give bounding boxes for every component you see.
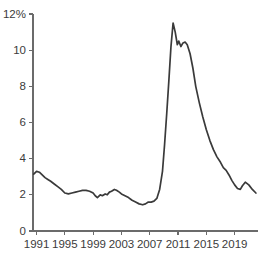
- y-axis: 12%1086420: [3, 8, 33, 237]
- y-tick-group: 12%1086420: [3, 8, 33, 237]
- chart-container: 12%1086420 19911995199920032007201120152…: [0, 0, 265, 259]
- x-tick-label: 1995: [52, 238, 78, 250]
- data-series-line: [34, 23, 256, 205]
- x-tick-label: 2003: [109, 238, 135, 250]
- x-tick-group: 19911995199920032007201120152019: [24, 231, 248, 250]
- y-tick-label: 8: [20, 80, 26, 92]
- plot-area: [34, 23, 256, 205]
- y-tick-label: 4: [20, 152, 27, 164]
- y-tick-label: 6: [20, 116, 26, 128]
- x-tick-label: 2007: [137, 238, 163, 250]
- x-axis: 19911995199920032007201120152019: [24, 231, 258, 250]
- line-chart: 12%1086420 19911995199920032007201120152…: [0, 0, 265, 259]
- y-tick-label: 0: [20, 225, 26, 237]
- y-tick-label: 2: [20, 188, 26, 200]
- x-tick-label: 2015: [194, 238, 220, 250]
- x-tick-label: 2019: [222, 238, 248, 250]
- x-tick-label: 1991: [24, 238, 50, 250]
- x-tick-label: 1999: [80, 238, 106, 250]
- x-tick-label: 2011: [166, 238, 191, 250]
- y-tick-label: 10: [13, 44, 26, 56]
- y-tick-label: 12%: [3, 8, 26, 20]
